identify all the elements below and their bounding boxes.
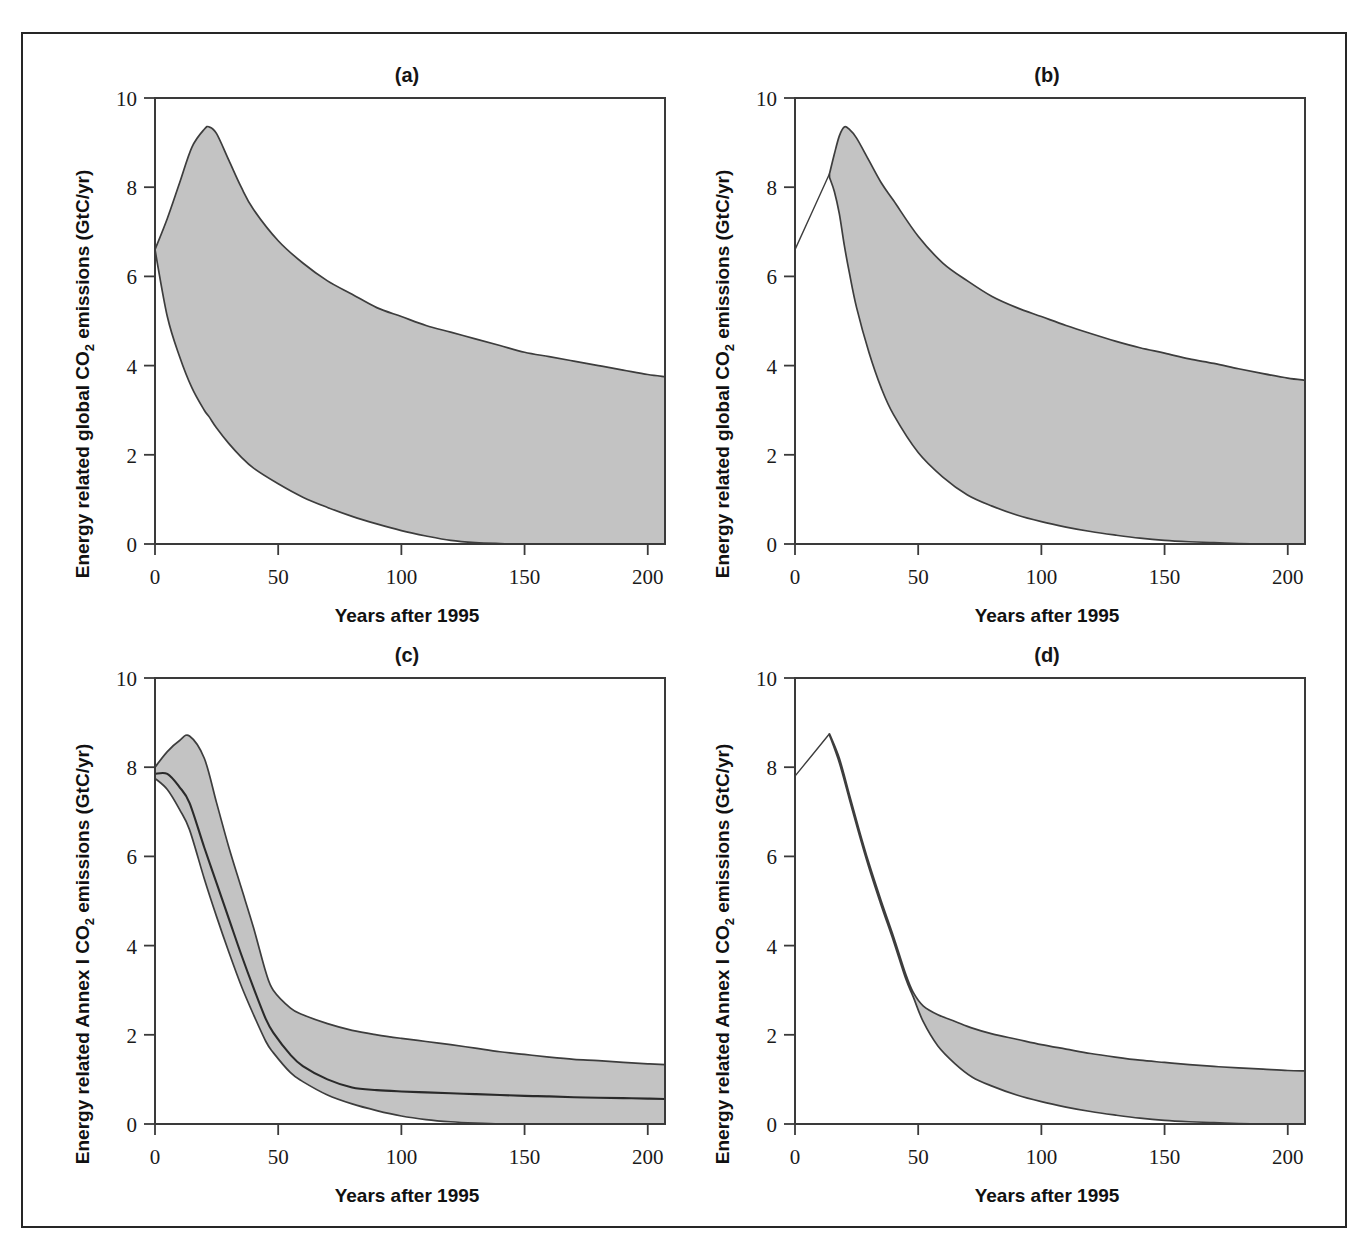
panel-c: (c) Energy related Annex I CO2 emissions… (47, 624, 707, 1222)
svg-text:Energy related global CO2 emis: Energy related global CO2 emissions (GtC… (72, 170, 97, 578)
panel-c-title: (c) (395, 644, 419, 666)
panel-c-plot: 0246810050100150200 (116, 667, 665, 1169)
y-tick-label: 0 (127, 1113, 138, 1137)
y-tick-label: 4 (767, 935, 778, 959)
panel-d-ylabel: Energy related Annex I CO2 emissions (Gt… (712, 744, 737, 1164)
y-tick-label: 10 (116, 667, 137, 691)
panel-b-xlabel: Years after 1995 (975, 605, 1120, 626)
y-tick-label: 6 (767, 845, 778, 869)
ylabel-part-1: Energy related Annex I CO (72, 925, 93, 1164)
panel-a-title: (a) (395, 64, 419, 86)
ylabel-part-3: emissions (GtC/yr) (72, 744, 93, 918)
x-tick-label: 200 (1272, 565, 1304, 589)
ylabel-part-3: emissions (GtC/yr) (72, 170, 93, 344)
x-tick-label: 150 (509, 1145, 540, 1169)
panel-c-ylabel: Energy related Annex I CO2 emissions (Gt… (72, 744, 97, 1164)
panel-b: (b) Energy related global CO2 emissions … (687, 44, 1347, 642)
x-tick-label: 200 (632, 1145, 664, 1169)
uncertainty-band (155, 126, 665, 544)
x-tick-label: 100 (1026, 1145, 1058, 1169)
ylabel-sub-2: 2 (722, 918, 737, 925)
y-tick-label: 6 (767, 265, 778, 289)
y-tick-label: 0 (767, 533, 778, 557)
y-tick-label: 2 (767, 1024, 778, 1048)
x-tick-label: 150 (1149, 565, 1181, 589)
y-tick-label: 4 (127, 355, 138, 379)
ylabel-sub-2: 2 (722, 344, 737, 351)
y-tick-label: 8 (767, 756, 778, 780)
y-tick-label: 4 (767, 355, 778, 379)
panel-b-title: (b) (1034, 64, 1060, 86)
panel-d-svg: (d) Energy related Annex I CO2 emissions… (687, 624, 1347, 1222)
lead-in-line (795, 734, 829, 776)
uncertainty-band (829, 734, 1305, 1124)
panel-d-xlabel: Years after 1995 (975, 1185, 1120, 1206)
ylabel-part-1: Energy related global CO (712, 351, 733, 578)
y-tick-label: 6 (127, 265, 138, 289)
panel-a-xlabel: Years after 1995 (335, 605, 480, 626)
y-tick-label: 8 (127, 756, 138, 780)
y-tick-label: 0 (127, 533, 138, 557)
x-tick-label: 150 (509, 565, 540, 589)
panel-b-svg: (b) Energy related global CO2 emissions … (687, 44, 1347, 642)
ylabel-part-1: Energy related Annex I CO (712, 925, 733, 1164)
x-tick-label: 200 (632, 565, 664, 589)
y-tick-label: 2 (767, 444, 778, 468)
panel-a-plot: 0246810050100150200 (116, 87, 665, 589)
panel-c-xlabel: Years after 1995 (335, 1185, 480, 1206)
y-tick-label: 8 (127, 176, 138, 200)
panel-d-title: (d) (1034, 644, 1060, 666)
x-tick-label: 100 (386, 565, 418, 589)
x-tick-label: 0 (790, 565, 801, 589)
figure-root: (a) Energy related global CO2 emissions … (0, 0, 1364, 1242)
x-tick-label: 100 (1026, 565, 1058, 589)
panel-b-plot: 0246810050100150200 (756, 87, 1305, 589)
x-tick-label: 50 (908, 1145, 929, 1169)
y-tick-label: 10 (116, 87, 137, 111)
y-tick-label: 2 (127, 444, 138, 468)
x-tick-label: 100 (386, 1145, 418, 1169)
y-tick-label: 6 (127, 845, 138, 869)
x-tick-label: 0 (150, 565, 161, 589)
panel-c-svg: (c) Energy related Annex I CO2 emissions… (47, 624, 707, 1222)
svg-text:Energy related Annex I CO2 emi: Energy related Annex I CO2 emissions (Gt… (712, 744, 737, 1164)
ylabel-part-3: emissions (GtC/yr) (712, 170, 733, 344)
panel-a-ylabel: Energy related global CO2 emissions (GtC… (72, 170, 97, 578)
x-tick-label: 50 (268, 1145, 289, 1169)
ylabel-part-3: emissions (GtC/yr) (712, 744, 733, 918)
panel-d-plot: 0246810050100150200 (756, 667, 1305, 1169)
ylabel-sub-2: 2 (82, 918, 97, 925)
lead-in-line (795, 174, 829, 250)
svg-text:Energy related global CO2 emis: Energy related global CO2 emissions (GtC… (712, 170, 737, 578)
uncertainty-band (829, 127, 1305, 544)
y-tick-label: 2 (127, 1024, 138, 1048)
y-tick-label: 4 (127, 935, 138, 959)
x-tick-label: 0 (150, 1145, 161, 1169)
svg-text:Energy related Annex I CO2 emi: Energy related Annex I CO2 emissions (Gt… (72, 744, 97, 1164)
y-tick-label: 0 (767, 1113, 778, 1137)
y-tick-label: 8 (767, 176, 778, 200)
x-tick-label: 150 (1149, 1145, 1181, 1169)
x-tick-label: 200 (1272, 1145, 1304, 1169)
x-tick-label: 50 (268, 565, 289, 589)
panel-a-svg: (a) Energy related global CO2 emissions … (47, 44, 707, 642)
y-tick-label: 10 (756, 87, 777, 111)
ylabel-part-1: Energy related global CO (72, 351, 93, 578)
y-tick-label: 10 (756, 667, 777, 691)
x-tick-label: 50 (908, 565, 929, 589)
figure-outer-border: (a) Energy related global CO2 emissions … (21, 32, 1347, 1228)
x-tick-label: 0 (790, 1145, 801, 1169)
panel-b-ylabel: Energy related global CO2 emissions (GtC… (712, 170, 737, 578)
panel-d: (d) Energy related Annex I CO2 emissions… (687, 624, 1347, 1222)
panel-a: (a) Energy related global CO2 emissions … (47, 44, 707, 642)
ylabel-sub-2: 2 (82, 344, 97, 351)
